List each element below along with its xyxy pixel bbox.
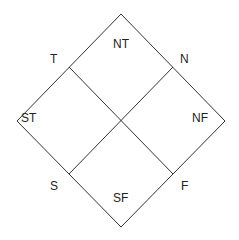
quadrant-label-nt: NT xyxy=(113,38,129,50)
quadrant-label-sf: SF xyxy=(113,192,128,204)
quadrant-label-nf: NF xyxy=(192,112,208,124)
quadrant-label-st: ST xyxy=(21,112,36,124)
corner-label-n: N xyxy=(180,53,189,65)
corner-label-t: T xyxy=(50,53,57,65)
corner-label-f: F xyxy=(181,180,188,192)
corner-label-s: S xyxy=(50,180,58,192)
